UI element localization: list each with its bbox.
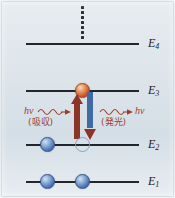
absorption-wavy-arrow-icon [37, 104, 72, 117]
e2-electron-sphere [40, 137, 55, 152]
emission-photon-label: hν [135, 106, 144, 116]
emission-down-arrow [84, 92, 96, 140]
level-line-e4 [26, 43, 139, 45]
continuation-dotted-line [81, 6, 84, 39]
emission-wavy-arrow-icon [99, 104, 134, 117]
e1-electron-sphere-right [75, 174, 90, 189]
level-label-e4-sub: 4 [155, 42, 159, 51]
level-label-e4: E4 [148, 37, 159, 51]
absorption-process-label: (吸収) [28, 118, 53, 127]
absorption-up-arrow [71, 94, 83, 140]
level-label-e1: E1 [148, 175, 159, 189]
emission-photon-group: hν (発光) [99, 104, 149, 132]
level-label-e1-sub: 1 [155, 180, 159, 189]
energy-level-diagram: E4 E3 hν (吸収) hν (発光) E2 E1 [0, 0, 175, 198]
e2-vacancy-circle [75, 137, 90, 152]
absorption-photon-label: hν [24, 106, 33, 116]
level-label-e2-sub: 2 [155, 143, 159, 152]
absorption-photon-group: hν (吸収) [24, 104, 72, 132]
e1-electron-sphere-left [40, 174, 55, 189]
level-label-e3: E3 [148, 84, 159, 98]
emission-process-label: (発光) [101, 118, 126, 127]
level-label-e3-sub: 3 [155, 89, 159, 98]
level-label-e2: E2 [148, 138, 159, 152]
